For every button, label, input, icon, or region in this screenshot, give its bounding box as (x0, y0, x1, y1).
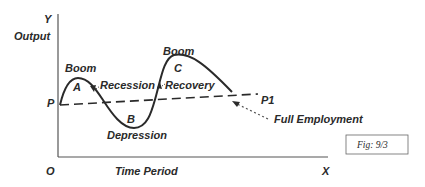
trend-start-label: P (47, 97, 55, 109)
y-axis-label: Output (14, 30, 51, 42)
business-cycle-diagram: Y Output O Time Period X P P1 Full Emplo… (0, 0, 425, 187)
boom-label-2: Boom (163, 45, 194, 57)
point-c-label: C (174, 62, 183, 74)
figure-label: Fig: 9/3 (356, 140, 388, 150)
point-b-label: B (127, 113, 135, 125)
full-employment-trend-line (60, 94, 258, 105)
full-employment-arrow-icon (232, 101, 240, 107)
boom-label-1: Boom (65, 62, 96, 74)
full-employment-pointer-dotted (237, 104, 268, 119)
full-employment-label: Full Employment (274, 113, 364, 125)
origin-label: O (46, 165, 55, 177)
recovery-label: Recovery (165, 79, 215, 91)
depression-label: Depression (107, 129, 167, 141)
x-axis-label: Time Period (115, 165, 178, 177)
x-axis-letter: X (321, 165, 330, 177)
trend-end-label: P1 (261, 94, 274, 106)
point-a-label: A (72, 81, 81, 93)
y-axis-letter: Y (44, 13, 53, 25)
recession-label: Recession (100, 79, 155, 91)
